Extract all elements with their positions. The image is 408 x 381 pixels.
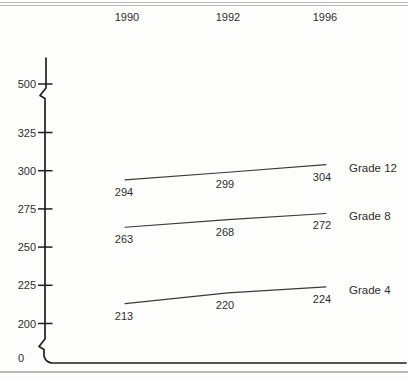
series-name-label: Grade 12 [349, 162, 397, 174]
y-baseline-label: 0 [18, 352, 24, 364]
x-axis-year-label: 1996 [313, 11, 337, 23]
value-label: 294 [115, 186, 133, 198]
x-axis-year-label: 1990 [115, 11, 139, 23]
value-label: 299 [216, 178, 234, 190]
y-tick-label: 500 [18, 78, 36, 90]
y-tick-label: 325 [18, 127, 36, 139]
value-label: 268 [216, 226, 234, 238]
x-axis-year-label: 1992 [216, 11, 240, 23]
value-label: 220 [216, 299, 234, 311]
series-name-label: Grade 4 [349, 284, 391, 296]
value-label: 213 [115, 310, 133, 322]
value-label: 263 [115, 233, 133, 245]
y-tick-label: 300 [18, 165, 36, 177]
grade-score-trend-figure: 5003253002752502252000199019921996294299… [0, 0, 408, 381]
value-label: 272 [313, 219, 331, 231]
chart-canvas: 5003253002752502252000199019921996294299… [0, 0, 408, 381]
y-tick-label: 225 [18, 279, 36, 291]
y-tick-label: 250 [18, 241, 36, 253]
series-name-label: Grade 8 [349, 210, 391, 222]
y-tick-label: 275 [18, 203, 36, 215]
y-tick-label: 200 [18, 318, 36, 330]
value-label: 304 [313, 171, 331, 183]
value-label: 224 [313, 293, 331, 305]
